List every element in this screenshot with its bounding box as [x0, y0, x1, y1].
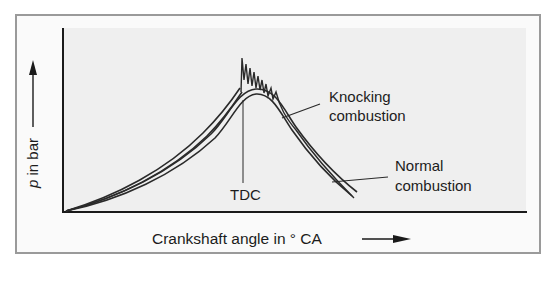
y-axis-arrow-icon — [29, 60, 37, 127]
knocking-label-line1: Knocking — [329, 88, 391, 105]
tdc-label: TDC — [230, 186, 261, 203]
normal-label-line1: Normal — [395, 157, 443, 174]
normal-combustion-curve — [66, 89, 357, 211]
y-axis-variable: p — [24, 180, 41, 188]
y-axis-label: p in bar — [24, 138, 41, 188]
knocking-label-line2: combustion — [329, 107, 406, 124]
x-axis-arrow-icon — [362, 235, 411, 243]
normal-label-line2: combustion — [395, 177, 472, 194]
knocking-leader-line — [282, 104, 320, 118]
x-axis-label: Crankshaft angle in ° CA — [152, 230, 322, 247]
y-axis-unit: in bar — [24, 138, 41, 180]
